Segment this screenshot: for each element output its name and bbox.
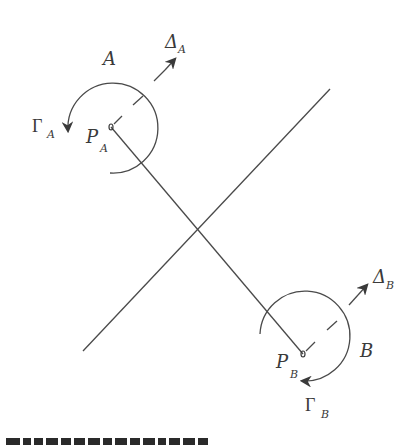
dash-a-1 [114,116,122,124]
delta-b-label: Δ [372,266,386,287]
perpendicular-line [83,89,330,351]
gamma-a-subscript: A [46,128,55,141]
delta-a-label: Δ [164,31,178,52]
direction-arrow-b [358,285,367,295]
region-b-label: B [359,340,373,361]
dash-b-1 [306,342,315,351]
direction-arrow-a [165,59,175,70]
delta-b-subscript: B [385,279,394,292]
cutoff-caption [6,438,410,445]
point-b-subscript: B [289,368,298,381]
connecting-segment [111,127,303,354]
point-b-label: P [275,351,289,372]
gamma-a-label: Γ [32,116,42,136]
dash-a-2 [133,96,143,105]
diagram-canvas: A B P A P B Γ A Γ B Δ A Δ B [0,0,417,445]
dash-b-2 [327,321,337,330]
gamma-b-subscript: B [320,408,329,421]
point-a-subscript: A [99,142,108,155]
point-a-group [68,59,175,173]
region-a-label: A [101,48,116,69]
circulation-diagram: A B P A P B Γ A Γ B Δ A Δ B [0,0,417,445]
dash-b-3 [349,295,358,305]
delta-a-subscript: A [177,43,186,56]
point-a-label: P [85,126,99,147]
dash-a-3 [154,70,165,81]
circulation-arc-b [260,291,350,381]
gamma-b-label: Γ [305,395,315,415]
